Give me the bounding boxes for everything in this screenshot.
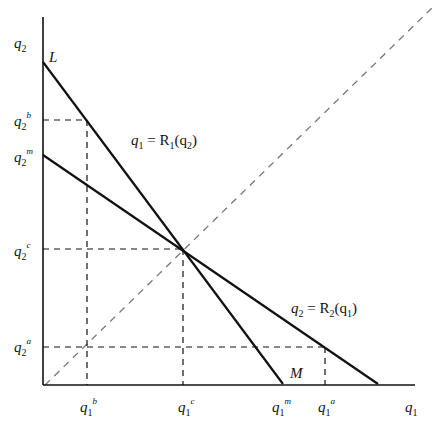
x-tick-q1m: q1m	[272, 396, 292, 418]
x-axis-label: q1	[405, 399, 418, 418]
x-tick-q1a: q1a	[318, 396, 336, 418]
x-tick-q1c: q1c	[178, 396, 195, 418]
x-tick-q1b: q1b	[80, 396, 98, 418]
reaction-function-diagram: q2 q1 L M q1 = R1(q2) q2 = R2(q1) q2b q2…	[0, 0, 437, 426]
point-label-l: L	[48, 49, 57, 65]
y-tick-q2a: q2a	[14, 336, 32, 358]
y-axis-label: q2	[14, 35, 27, 54]
y-tick-q2b: q2b	[14, 110, 32, 132]
curve-label-r2: q2 = R2(q1)	[291, 300, 357, 319]
y-tick-q2c: q2c	[14, 240, 31, 262]
reaction-curve-r2	[43, 155, 378, 384]
reaction-curve-r1	[43, 62, 283, 384]
curve-label-r1: q1 = R1(q2)	[131, 132, 197, 151]
point-label-m: M	[289, 365, 304, 381]
y-tick-q2m: q2m	[14, 146, 34, 168]
